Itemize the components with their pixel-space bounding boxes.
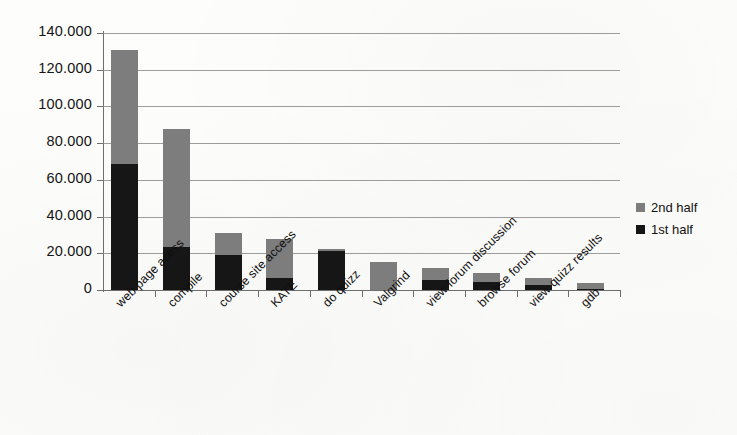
bar-stack[interactable] xyxy=(215,33,242,290)
x-axis-tick xyxy=(568,291,569,297)
bar-segment-second-half[interactable] xyxy=(318,249,345,251)
y-axis-tick-label: 20.000 xyxy=(46,243,92,259)
legend-label: 1st half xyxy=(651,222,693,237)
bar-segment-second-half[interactable] xyxy=(215,233,242,255)
legend-swatch-icon xyxy=(636,203,645,212)
x-axis-tick xyxy=(620,291,621,297)
legend: 2nd half1st half xyxy=(636,196,734,240)
y-axis-tick-label: 0 xyxy=(84,280,92,296)
bar-stack[interactable] xyxy=(111,33,138,290)
bar-segment-second-half[interactable] xyxy=(111,50,138,165)
bar-segment-second-half[interactable] xyxy=(163,129,190,246)
x-axis-tick xyxy=(310,291,311,297)
y-axis-tick-label: 140.000 xyxy=(38,23,92,39)
y-axis-tick-label: 120.000 xyxy=(38,60,92,76)
bar-stack[interactable] xyxy=(370,33,397,290)
x-axis-tick xyxy=(517,291,518,297)
x-axis-tick xyxy=(465,291,466,297)
x-axis-tick xyxy=(206,291,207,297)
stacked-bar-chart: 020.00040.00060.00080.000100.000120.0001… xyxy=(0,0,737,435)
x-axis-tick xyxy=(155,291,156,297)
y-axis-tick-label: 80.000 xyxy=(46,133,92,149)
y-axis-tick-label: 100.000 xyxy=(38,96,92,112)
bar-stack[interactable] xyxy=(422,33,449,290)
y-axis-tick-label: 60.000 xyxy=(46,170,92,186)
legend-item[interactable]: 2nd half xyxy=(636,196,734,218)
legend-swatch-icon xyxy=(636,225,645,234)
y-axis-labels: 020.00040.00060.00080.000100.000120.0001… xyxy=(0,0,92,435)
bar-segment-first-half[interactable] xyxy=(111,164,138,290)
y-axis-tick-label: 40.000 xyxy=(46,207,92,223)
legend-item[interactable]: 1st half xyxy=(636,218,734,240)
bar-stack[interactable] xyxy=(318,33,345,290)
x-axis-tick xyxy=(413,291,414,297)
x-axis-tick xyxy=(258,291,259,297)
x-axis-tick xyxy=(362,291,363,297)
legend-label: 2nd half xyxy=(651,200,697,215)
